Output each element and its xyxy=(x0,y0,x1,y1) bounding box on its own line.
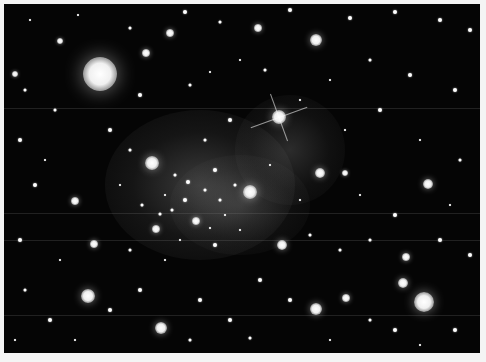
faint-star xyxy=(239,59,241,61)
faint-star xyxy=(141,204,144,207)
faint-star xyxy=(408,73,412,77)
faint-star xyxy=(288,8,292,12)
faint-star xyxy=(186,180,190,184)
faint-star xyxy=(359,194,361,196)
faint-star xyxy=(378,108,382,112)
faint-star xyxy=(269,164,271,166)
faint-star xyxy=(44,159,46,161)
faint-star xyxy=(171,209,174,212)
faint-star xyxy=(204,189,207,192)
faint-star xyxy=(129,27,132,30)
faint-star xyxy=(228,318,232,322)
bright-star xyxy=(145,156,159,170)
faint-star xyxy=(14,339,16,341)
faint-star xyxy=(468,253,472,257)
scan-streak xyxy=(4,315,480,316)
faint-star xyxy=(329,79,331,81)
bright-star xyxy=(402,253,410,261)
bright-star xyxy=(310,34,322,46)
faint-star xyxy=(219,199,222,202)
faint-star xyxy=(258,278,262,282)
faint-star xyxy=(174,174,177,177)
faint-star xyxy=(228,118,232,122)
faint-star xyxy=(438,238,442,242)
faint-star xyxy=(77,14,79,16)
faint-star xyxy=(449,204,451,206)
faint-star xyxy=(24,89,27,92)
faint-star xyxy=(119,184,121,186)
faint-star xyxy=(183,198,187,202)
bright-star xyxy=(277,240,287,250)
astronomical-image xyxy=(4,4,480,353)
faint-star xyxy=(198,298,202,302)
faint-star xyxy=(309,234,312,237)
bright-star xyxy=(423,179,433,189)
faint-star xyxy=(288,298,292,302)
bright-star xyxy=(398,278,408,288)
bright-star xyxy=(57,38,63,44)
bright-star xyxy=(152,225,160,233)
bright-star xyxy=(310,303,322,315)
faint-star xyxy=(209,71,211,73)
faint-star xyxy=(18,138,22,142)
faint-star xyxy=(189,84,192,87)
faint-star xyxy=(33,183,37,187)
bright-star xyxy=(142,49,150,57)
faint-star xyxy=(108,308,112,312)
faint-star xyxy=(183,10,187,14)
faint-star xyxy=(299,99,301,101)
faint-star xyxy=(54,109,57,112)
bright-star xyxy=(155,322,167,334)
scan-streak xyxy=(4,108,480,109)
bright-star xyxy=(192,217,200,225)
faint-star xyxy=(344,129,346,131)
faint-star xyxy=(369,239,372,242)
faint-star xyxy=(159,213,162,216)
faint-star xyxy=(249,337,252,340)
bright-star xyxy=(243,185,257,199)
faint-star xyxy=(453,88,457,92)
faint-star xyxy=(129,249,132,252)
faint-star xyxy=(29,19,31,21)
faint-star xyxy=(213,243,217,247)
bright-star xyxy=(81,289,95,303)
faint-star xyxy=(339,249,342,252)
faint-star xyxy=(438,18,442,22)
faint-star xyxy=(348,16,352,20)
scan-streak xyxy=(4,213,480,214)
faint-star xyxy=(453,328,457,332)
faint-star xyxy=(369,59,372,62)
faint-star xyxy=(224,214,226,216)
faint-star xyxy=(299,199,301,201)
faint-star xyxy=(164,194,166,196)
faint-star xyxy=(219,21,222,24)
bright-star xyxy=(166,29,174,37)
faint-star xyxy=(393,213,397,217)
bright-star xyxy=(83,57,117,91)
bright-star xyxy=(342,170,348,176)
faint-star xyxy=(189,339,192,342)
faint-star xyxy=(179,239,181,241)
faint-star xyxy=(108,128,112,132)
scan-streak xyxy=(4,240,480,241)
faint-star xyxy=(138,93,142,97)
faint-star xyxy=(213,168,217,172)
faint-star xyxy=(468,28,472,32)
faint-star xyxy=(129,149,132,152)
faint-star xyxy=(459,159,462,162)
faint-star xyxy=(329,339,331,341)
bright-star xyxy=(342,294,350,302)
faint-star xyxy=(264,69,267,72)
faint-star xyxy=(24,289,27,292)
faint-star xyxy=(59,259,61,261)
faint-star xyxy=(234,184,237,187)
faint-star xyxy=(419,139,421,141)
faint-star xyxy=(74,339,76,341)
faint-star xyxy=(164,259,166,261)
bright-star xyxy=(90,240,98,248)
bright-star xyxy=(254,24,262,32)
faint-star xyxy=(209,227,211,229)
faint-star xyxy=(419,344,421,346)
faint-star xyxy=(239,229,241,231)
faint-star xyxy=(138,288,142,292)
